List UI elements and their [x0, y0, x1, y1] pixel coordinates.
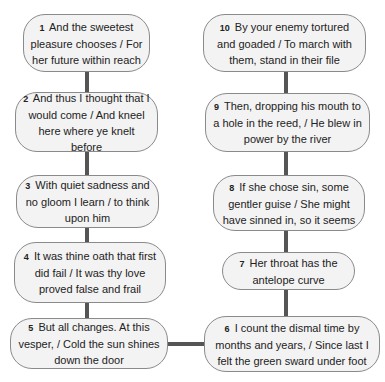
- node-5-content: 5 But all changes. At this vesper, / Col…: [17, 319, 161, 368]
- node-7[interactable]: 7 Her throat has the antelope curve: [222, 252, 355, 290]
- node-text: By your enemy tortured and goaded / To m…: [217, 21, 352, 66]
- node-number: 10: [220, 23, 230, 33]
- edge-8-9: [284, 152, 288, 175]
- edge-9-10: [284, 72, 288, 93]
- node-5[interactable]: 5 But all changes. At this vesper, / Col…: [10, 318, 168, 369]
- node-text: With quiet sadness and no gloom I learn …: [26, 179, 150, 224]
- node-number: 6: [225, 324, 230, 334]
- node-4[interactable]: 4 It was thine oath that first did fail …: [14, 242, 166, 303]
- node-7-content: 7 Her throat has the antelope curve: [239, 255, 338, 288]
- node-text: And thus I thought that I would come / A…: [28, 92, 149, 153]
- node-6-content: 6 I count the dismal time by months and …: [211, 320, 373, 369]
- node-9[interactable]: 9 Then, dropping his mouth to a hole in …: [205, 93, 370, 152]
- node-8-content: 8 If she chose sin, some gentler guise /…: [220, 179, 358, 228]
- edge-4-5: [85, 303, 89, 318]
- node-number: 4: [24, 252, 29, 262]
- node-1[interactable]: 1 And the sweetest pleasure chooses / Fo…: [23, 14, 150, 72]
- node-number: 2: [23, 94, 28, 104]
- flowchart-canvas: 1 And the sweetest pleasure chooses / Fo…: [0, 0, 385, 382]
- node-number: 7: [239, 259, 244, 269]
- node-text: But all changes. At this vesper, / Cold …: [18, 321, 159, 366]
- node-3-content: 3 With quiet sadness and no gloom I lear…: [23, 177, 152, 226]
- node-10[interactable]: 10 By your enemy tortured and goaded / T…: [203, 14, 366, 72]
- edge-2-3: [85, 152, 89, 175]
- edge-5-6: [168, 342, 204, 346]
- node-number: 9: [214, 102, 219, 112]
- edge-6-7: [284, 290, 288, 316]
- edge-3-4: [85, 228, 89, 242]
- node-text: If she chose sin, some gentler guise / S…: [223, 181, 356, 226]
- node-2-content: 2 And thus I thought that I would come /…: [22, 90, 151, 155]
- node-3[interactable]: 3 With quiet sadness and no gloom I lear…: [16, 175, 159, 228]
- node-1-content: 1 And the sweetest pleasure chooses / Fo…: [30, 19, 143, 68]
- node-text: Her throat has the antelope curve: [250, 257, 338, 286]
- node-number: 3: [25, 181, 30, 191]
- node-number: 1: [40, 23, 45, 33]
- node-2[interactable]: 2 And thus I thought that I would come /…: [15, 92, 158, 152]
- node-4-content: 4 It was thine oath that first did fail …: [21, 248, 159, 297]
- node-text: Then, dropping his mouth to a hole in th…: [213, 100, 362, 145]
- node-text: I count the dismal time by months and ye…: [215, 322, 368, 367]
- node-9-content: 9 Then, dropping his mouth to a hole in …: [212, 98, 363, 147]
- node-number: 5: [28, 323, 33, 333]
- node-text: And the sweetest pleasure chooses / For …: [31, 21, 143, 66]
- node-text: It was thine oath that first did fail / …: [34, 250, 156, 295]
- node-number: 8: [229, 183, 234, 193]
- edge-7-8: [284, 231, 288, 252]
- node-8[interactable]: 8 If she chose sin, some gentler guise /…: [213, 175, 365, 231]
- node-6[interactable]: 6 I count the dismal time by months and …: [204, 316, 380, 372]
- node-10-content: 10 By your enemy tortured and goaded / T…: [210, 19, 359, 68]
